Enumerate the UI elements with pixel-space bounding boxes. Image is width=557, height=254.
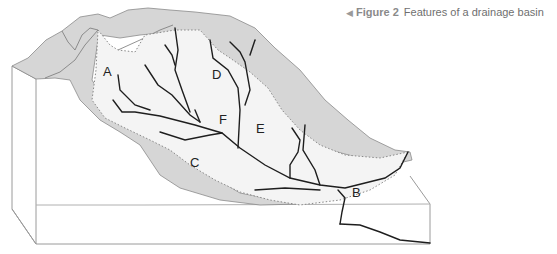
label-c: C: [190, 155, 199, 170]
block-mid-line: [36, 204, 430, 205]
label-d: D: [212, 67, 221, 82]
label-a: A: [103, 64, 112, 79]
label-f: F: [219, 112, 227, 127]
river-outflow: [340, 224, 430, 243]
label-e: E: [256, 121, 265, 136]
drainage-basin-diagram: A B C D E F: [0, 0, 557, 254]
block-bottom-left: [12, 209, 36, 244]
label-b: B: [352, 185, 361, 200]
